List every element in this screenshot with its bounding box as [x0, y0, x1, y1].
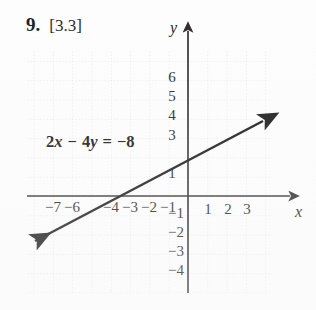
y-tick-neg2: −2: [168, 224, 184, 240]
equation-minus: −: [68, 132, 77, 151]
x-tick-neg6: −6: [64, 199, 80, 215]
y-tick-5: 5: [168, 88, 176, 104]
equation-coef-x: 2: [46, 132, 54, 151]
coordinate-plane-figure: x y 6 5 4 3 1 −1 −2 −3 −4 −7 −6 −4 −3 −2: [0, 0, 316, 310]
equation-var-y: y: [88, 132, 98, 151]
x-tick-neg1: −1: [160, 199, 176, 215]
x-tick-2: 2: [224, 201, 232, 217]
grid-background: [27, 50, 272, 293]
x-tick-3: 3: [243, 201, 251, 217]
x-tick-1: 1: [204, 201, 212, 217]
x-tick-neg3: −3: [122, 199, 138, 215]
equation-rhs: −8: [117, 132, 135, 151]
equation-annotation: 2x−4y=−8: [46, 132, 135, 151]
y-axis-label: y: [168, 19, 178, 37]
y-tick-3: 3: [168, 127, 176, 143]
equation-equals: =: [102, 132, 111, 151]
x-tick-neg2: −2: [141, 199, 157, 215]
x-axis-label: x: [294, 203, 302, 220]
y-tick-neg3: −3: [168, 243, 184, 259]
y-tick-neg4: −4: [168, 262, 184, 278]
equation-coef-y: 4: [82, 132, 90, 151]
y-tick-4: 4: [168, 107, 176, 123]
x-tick-neg7: −7: [45, 199, 61, 215]
figure-page: 9. [3.3]: [0, 0, 316, 310]
equation-var-x: x: [53, 132, 62, 151]
y-tick-6: 6: [168, 69, 176, 85]
